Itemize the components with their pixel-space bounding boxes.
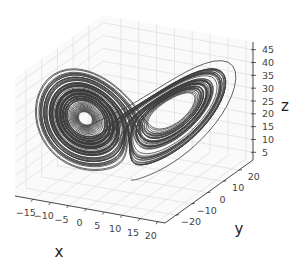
- y-tick-label: −20: [181, 216, 201, 227]
- x-tick-label: 5: [94, 220, 100, 231]
- z-tick-label: 40: [262, 57, 274, 68]
- z-tick-label: 20: [262, 108, 274, 119]
- z-tick-label: 35: [262, 70, 274, 81]
- x-axis-label: x: [55, 243, 64, 261]
- z-axis-label: z: [281, 97, 289, 115]
- y-tick-label: −10: [197, 205, 217, 216]
- z-tick-label: 25: [262, 96, 274, 107]
- x-tick-label: −10: [34, 210, 54, 221]
- x-tick-label: 15: [127, 227, 139, 238]
- z-tick-label: 10: [262, 134, 274, 145]
- y-tick-label: 0: [219, 194, 225, 205]
- x-tick-label: 0: [76, 217, 82, 228]
- lorenz-3d-plot: −15−10−505101520−20−10010205101520253035…: [0, 0, 306, 277]
- z-tick-label: 45: [262, 44, 274, 55]
- z-tick-label: 30: [262, 83, 274, 94]
- y-tick-label: 20: [248, 171, 260, 182]
- x-tick-label: 10: [109, 223, 121, 234]
- y-tick-label: 10: [232, 182, 244, 193]
- z-tick-label: 15: [262, 121, 274, 132]
- x-tick-label: −5: [55, 214, 69, 225]
- y-axis-label: y: [235, 220, 244, 238]
- x-tick-label: 20: [145, 230, 157, 241]
- z-tick-label: 5: [262, 147, 268, 158]
